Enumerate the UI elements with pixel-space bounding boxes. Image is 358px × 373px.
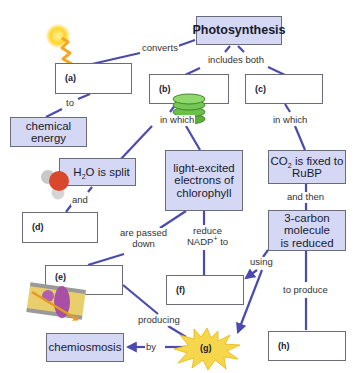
link-are-passed-down: are passed down (119, 228, 168, 249)
node-chemiosmosis: chemiosmosis (46, 333, 124, 362)
node-g-blank[interactable]: (g) (200, 343, 212, 353)
link-in-which-c: in which (272, 115, 308, 126)
top-margin (0, 0, 358, 6)
node-f-blank[interactable]: (f) (166, 275, 244, 305)
node-a-blank[interactable]: (a) (55, 63, 132, 94)
link-by: by (145, 342, 157, 353)
link-and-then: and then (286, 192, 325, 203)
node-co2-fixed: CO2 is fixed to RuBP (268, 150, 346, 184)
membrane-protein-icon (26, 280, 88, 328)
node-d-blank[interactable]: (d) (22, 212, 98, 243)
node-3-carbon-reduced: 3-carbon molecule is reduced (268, 210, 346, 251)
link-to-produce: to produce (282, 285, 329, 296)
link-producing: producing (137, 315, 181, 326)
link-in-which-b: in which (159, 115, 195, 126)
link-converts: converts (141, 43, 179, 54)
link-and: and (71, 195, 89, 206)
node-c-blank[interactable]: (c) (245, 74, 323, 104)
node-chemical-energy: chemical energy (10, 117, 87, 147)
link-includes-both: includes both (207, 55, 265, 66)
water-molecule-icon (38, 166, 72, 200)
node-photosynthesis: Photosynthesis (196, 16, 282, 45)
link-to: to (65, 98, 75, 109)
link-using: using (249, 257, 274, 268)
node-h-blank[interactable]: (h) (268, 331, 346, 361)
node-light-excited-electrons: light-excited electrons of chlorophyll (165, 150, 243, 211)
link-reduce-nadp: reduce NADP+ to (186, 226, 229, 247)
